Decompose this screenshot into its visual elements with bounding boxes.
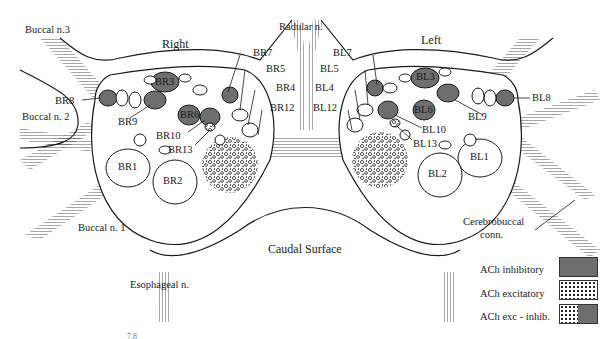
label-br2: BR2 <box>163 176 182 187</box>
label-br7: BR7 <box>253 48 272 59</box>
legend-swatch-inhibitory <box>559 257 598 277</box>
label-bl6: BL6 <box>414 105 433 116</box>
label-br6: BR6 <box>180 110 199 121</box>
label-bl2: BL2 <box>428 169 447 180</box>
label-br8: BR8 <box>55 96 74 107</box>
label-br12: BR12 <box>270 103 295 114</box>
label-bl12: BL12 <box>313 103 337 114</box>
label-br10: BR10 <box>156 131 181 142</box>
label-esophageal-n: Esophageal n. <box>130 280 189 291</box>
label-bl9: BL9 <box>468 112 487 123</box>
figure-number: 7.8 <box>127 333 137 339</box>
label-cerebrobuccal-conn: conn. <box>480 230 503 241</box>
excitatory-cluster-left <box>352 132 408 188</box>
label-right-side: Right <box>162 38 189 50</box>
neuron-bl7 <box>367 80 383 96</box>
label-bl13: BL13 <box>413 139 437 150</box>
label-buccal-n3: Buccal n.3 <box>25 25 70 36</box>
neuron-bl8 <box>496 90 514 106</box>
label-bl10: BL10 <box>422 125 446 136</box>
label-br4: BR4 <box>276 83 295 94</box>
neuron-br8 <box>99 90 117 106</box>
label-br13: BR13 <box>168 145 193 156</box>
legend-swatch-excitatory <box>559 280 598 300</box>
label-radular-n: Radular n. <box>279 22 323 33</box>
label-bl1: BL1 <box>470 152 489 163</box>
label-left-side: Left <box>421 34 441 46</box>
label-bl5: BL5 <box>320 64 339 75</box>
neuron-bl13 <box>390 119 400 127</box>
legend-label-excitatory: ACh excitatory <box>480 289 544 300</box>
label-buccal-n2: Buccal n. 2 <box>22 112 70 123</box>
label-cerebrobuccal: Cerebrobuccal <box>463 217 524 228</box>
neuron-bl9 <box>437 84 459 102</box>
legend-label-inhibitory: ACh inhibitory <box>480 265 544 276</box>
label-br1: BR1 <box>118 162 137 173</box>
legend-swatch-mixed <box>559 304 598 324</box>
legend-label-mixed: ACh exc - inhib. <box>480 312 550 323</box>
excitatory-cluster-right <box>202 137 258 193</box>
label-br9: BR9 <box>118 117 137 128</box>
label-bl7: BL7 <box>333 48 352 59</box>
label-caudal-surface: Caudal Surface <box>268 243 342 255</box>
label-buccal-n1: Buccal n. 1 <box>78 223 126 234</box>
neuron-br7 <box>222 87 238 103</box>
label-bl8: BL8 <box>532 93 551 104</box>
neuron-br13 <box>205 123 215 131</box>
label-br3: BR3 <box>155 77 174 88</box>
neuron-bl10 <box>378 101 398 119</box>
label-br5: BR5 <box>266 64 285 75</box>
label-bl4: BL4 <box>315 83 334 94</box>
label-bl3: BL3 <box>416 72 435 83</box>
